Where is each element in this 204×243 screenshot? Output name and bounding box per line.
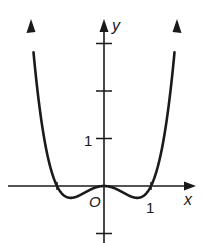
function-graph: y x O 1 1	[0, 0, 204, 243]
curve-arrow-right-icon	[173, 19, 182, 33]
curve-arrow-left-icon	[27, 19, 36, 33]
origin-label: O	[89, 194, 101, 209]
y-axis-arrow-icon	[100, 19, 109, 32]
y-tick-label-1: 1	[84, 133, 92, 148]
x-tick-label-1: 1	[146, 200, 154, 215]
x-axis-label: x	[184, 192, 192, 208]
y-axis-label: y	[112, 18, 120, 34]
x-axis-arrow-icon	[184, 182, 196, 191]
plot-area	[0, 0, 204, 243]
